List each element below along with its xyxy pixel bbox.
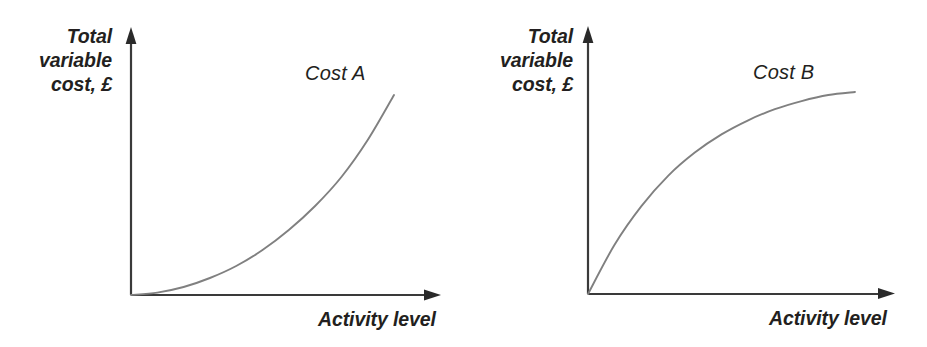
cost-b-curve: [588, 92, 855, 294]
y-axis-label-line-1: Total: [465, 24, 573, 48]
y-axis-label-line-3: cost, £: [465, 72, 573, 96]
chart-panel-cost-b: Total variable cost, £ Cost B Activity l…: [463, 0, 926, 347]
x-axis-label: Activity level: [318, 308, 436, 330]
y-axis-label: Total variable cost, £: [465, 24, 573, 96]
x-axis-label: Activity level: [769, 307, 887, 329]
cost-a-curve: [131, 95, 394, 295]
y-axis-label-line-2: variable: [8, 48, 112, 72]
chart-panel-cost-a: Total variable cost, £ Cost A Activity l…: [0, 0, 463, 347]
y-axis-label-line-3: cost, £: [8, 72, 112, 96]
y-axis-arrowhead-icon: [126, 27, 137, 44]
y-axis-label: Total variable cost, £: [8, 24, 112, 96]
y-axis-arrowhead-icon: [583, 26, 594, 43]
figure-root: Total variable cost, £ Cost A Activity l…: [0, 0, 927, 347]
x-axis-arrowhead-icon: [878, 288, 895, 299]
series-label-cost-b: Cost B: [753, 61, 814, 83]
series-label-cost-a: Cost A: [305, 62, 365, 84]
x-axis-arrowhead-icon: [424, 290, 441, 301]
y-axis-label-line-1: Total: [8, 24, 112, 48]
y-axis-label-line-2: variable: [465, 48, 573, 72]
